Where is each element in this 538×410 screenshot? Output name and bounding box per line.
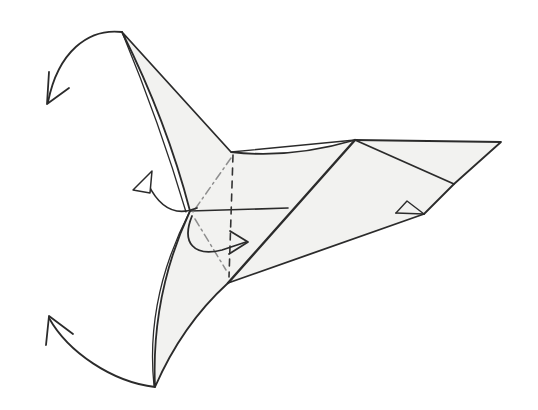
pullout-arrow-head: [133, 171, 152, 193]
top-fold-arrow-head: [47, 72, 69, 104]
top-fold-arrow-arc: [48, 32, 122, 102]
paper-outline: [122, 32, 501, 387]
tail-bottom-edge: [396, 213, 424, 214]
origami-step-figure: [0, 0, 538, 410]
diagram-canvas: [0, 0, 538, 410]
